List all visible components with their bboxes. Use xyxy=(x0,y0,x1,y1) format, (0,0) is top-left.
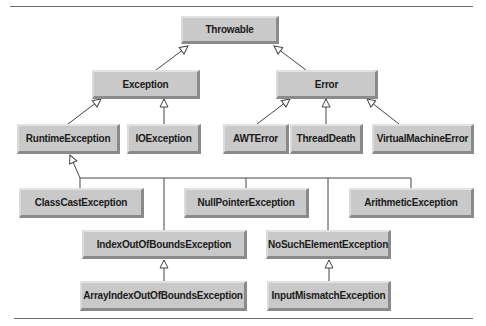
inheritance-edges xyxy=(0,0,486,326)
node-array-index-out-of-bounds-exception: ArrayIndexOutOfBoundsException xyxy=(80,281,247,311)
node-index-out-of-bounds-exception: IndexOutOfBoundsException xyxy=(82,230,247,259)
node-thread-death: ThreadDeath xyxy=(290,124,363,154)
node-throwable: Throwable xyxy=(181,16,279,44)
node-io-exception: IOException xyxy=(127,124,201,154)
node-awt-error: AWTError xyxy=(223,124,289,154)
node-input-mismatch-exception: InputMismatchException xyxy=(267,281,391,311)
node-exception: Exception xyxy=(92,70,200,99)
node-runtime-exception: RuntimeException xyxy=(17,124,120,154)
node-arithmetic-exception: ArithmeticException xyxy=(349,188,474,218)
node-no-such-element-exception: NoSuchElementException xyxy=(266,230,391,259)
node-virtual-machine-error: VirtualMachineError xyxy=(372,124,474,154)
node-null-pointer-exception: NullPointerException xyxy=(184,188,309,218)
node-class-cast-exception: ClassCastException xyxy=(19,188,144,218)
node-error: Error xyxy=(276,70,378,99)
